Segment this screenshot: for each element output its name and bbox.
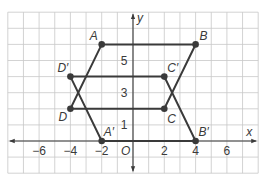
origin-label: O xyxy=(121,144,130,158)
y-tick-label: 1 xyxy=(121,118,128,132)
x-axis-label: x xyxy=(245,125,253,139)
point-a xyxy=(98,41,105,48)
point-label-d: D xyxy=(58,110,67,124)
point-b xyxy=(192,41,199,48)
x-tick-label: −2 xyxy=(95,144,109,158)
point-d xyxy=(67,106,74,113)
y-tick-label: 3 xyxy=(121,86,128,100)
point-label-b: B xyxy=(200,29,208,43)
x-tick-label: −4 xyxy=(64,144,78,158)
x-tick-label: 2 xyxy=(161,144,168,158)
x-tick-label: 4 xyxy=(192,144,199,158)
x-tick-label: −6 xyxy=(32,144,46,158)
point-label-a: A xyxy=(89,29,98,43)
point-label-c-prime: C′ xyxy=(167,61,179,75)
labels: ABCDA′B′C′D′xyO−6−4−2246135 xyxy=(32,11,253,158)
y-tick-label: 5 xyxy=(121,54,128,68)
y-axis-label: y xyxy=(136,11,144,25)
point-label-c: C xyxy=(167,112,176,126)
coordinate-plane: ABCDA′B′C′D′xyO−6−4−2246135 xyxy=(0,0,268,175)
point-label-d-prime: D′ xyxy=(57,61,69,75)
point-label-a-prime: A′ xyxy=(103,125,115,139)
point-label-b-prime: B′ xyxy=(199,125,210,139)
x-tick-label: 6 xyxy=(224,144,231,158)
